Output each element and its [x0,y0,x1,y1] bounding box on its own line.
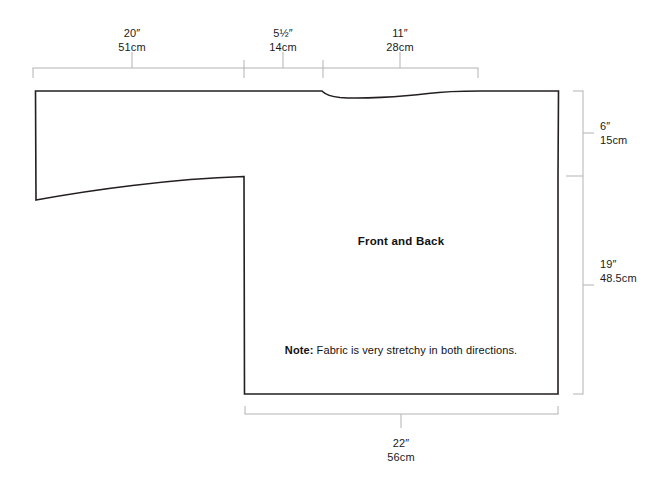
dimension-label-sleeve-width: 20″ 51cm [118,27,145,54]
pattern-drawing [0,0,664,484]
dimension-metric: 51cm [118,41,145,55]
bottom-dimension-bracket [245,406,558,428]
dimension-label-body-length: 19″ 48.5cm [600,258,637,285]
dimension-imperial: 22″ [387,437,414,451]
dimension-metric: 48.5cm [600,272,637,286]
note-text: Fabric is very stretchy in both directio… [313,344,517,356]
dimension-label-armhole-depth: 6″ 15cm [600,120,627,147]
dimension-label-body-width: 22″ 56cm [387,437,414,464]
note-prefix: Note: [285,344,314,356]
dimension-imperial: 11″ [386,27,413,41]
dimension-imperial: 6″ [600,120,627,134]
dimension-metric: 14cm [269,41,296,55]
fabric-note: Note: Fabric is very stretchy in both di… [285,344,517,356]
dimension-metric: 56cm [387,451,414,465]
dimension-imperial: 19″ [600,258,637,272]
right-dimension-bracket [566,91,594,394]
dimension-metric: 15cm [600,134,627,148]
dimension-metric: 28cm [386,41,413,55]
top-dimension-bracket [33,52,478,78]
dimension-imperial: 20″ [118,27,145,41]
dimension-label-neck-to-edge-width: 11″ 28cm [386,27,413,54]
dimension-imperial: 5½″ [269,27,296,41]
piece-name-label: Front and Back [358,235,445,247]
dimension-label-shoulder-width: 5½″ 14cm [269,27,296,54]
pattern-diagram-canvas: 20″ 51cm 5½″ 14cm 11″ 28cm 6″ 15cm 19″ 4… [0,0,664,484]
